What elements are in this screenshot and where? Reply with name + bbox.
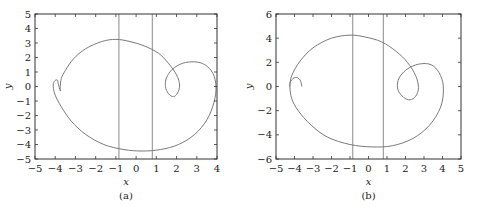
plot-frame <box>35 14 217 159</box>
x-axis-label: x <box>366 176 372 187</box>
y-tick-label: 5 <box>25 9 31 20</box>
x-tick-label: 5 <box>458 163 464 174</box>
y-tick-label: 4 <box>266 33 272 44</box>
y-tick-label: −2 <box>16 110 31 121</box>
x-tick-label: −2 <box>88 163 103 174</box>
x-tick-label: 1 <box>384 163 390 174</box>
x-tick-label: 0 <box>133 163 139 174</box>
panel-a-chart: −5−4−3−2−101234−5−4−3−2−1012345xy(a) <box>2 9 220 202</box>
x-tick-label: 3 <box>421 163 427 174</box>
panel-caption: (a) <box>119 190 133 201</box>
plot-frame <box>276 14 461 159</box>
y-tick-label: 4 <box>25 23 31 34</box>
x-tick-label: 4 <box>439 163 445 174</box>
x-tick-label: −3 <box>306 163 321 174</box>
x-tick-label: −5 <box>28 163 43 174</box>
x-tick-label: 2 <box>173 163 179 174</box>
y-tick-label: 3 <box>25 38 31 49</box>
y-tick-label: −2 <box>257 105 272 116</box>
figure: −5−4−3−2−101234−5−4−3−2−1012345xy(a) −5−… <box>0 0 478 216</box>
y-axis-label: y <box>243 83 254 90</box>
y-tick-label: 0 <box>25 81 31 92</box>
x-tick-label: −4 <box>287 163 302 174</box>
y-axis-label: y <box>2 83 13 90</box>
x-tick-label: −1 <box>109 163 124 174</box>
y-tick-label: 6 <box>266 9 272 20</box>
x-tick-label: −4 <box>48 163 63 174</box>
x-tick-label: 0 <box>365 163 371 174</box>
y-tick-label: 2 <box>25 52 31 63</box>
y-tick-label: −4 <box>257 129 272 140</box>
x-tick-label: 3 <box>194 163 200 174</box>
trajectory-curve <box>290 35 444 147</box>
y-tick-label: −6 <box>257 154 272 165</box>
y-tick-label: 1 <box>25 67 31 78</box>
x-tick-label: 2 <box>402 163 408 174</box>
x-tick-label: −1 <box>343 163 358 174</box>
x-tick-label: 1 <box>153 163 159 174</box>
y-tick-label: −1 <box>16 96 31 107</box>
y-tick-label: 0 <box>266 81 272 92</box>
panel-b-chart: −5−4−3−2−1012345−6−4−20246xy(b) <box>243 9 464 202</box>
y-tick-label: −4 <box>16 139 31 150</box>
x-axis-label: x <box>123 176 129 187</box>
y-tick-label: −5 <box>16 154 31 165</box>
x-tick-label: −3 <box>68 163 83 174</box>
x-tick-label: 4 <box>214 163 220 174</box>
y-tick-label: −3 <box>16 125 31 136</box>
y-tick-label: 2 <box>266 57 272 68</box>
trajectory-curve <box>53 39 216 151</box>
x-tick-label: −2 <box>324 163 339 174</box>
x-tick-label: −5 <box>269 163 284 174</box>
panel-caption: (b) <box>361 190 375 201</box>
